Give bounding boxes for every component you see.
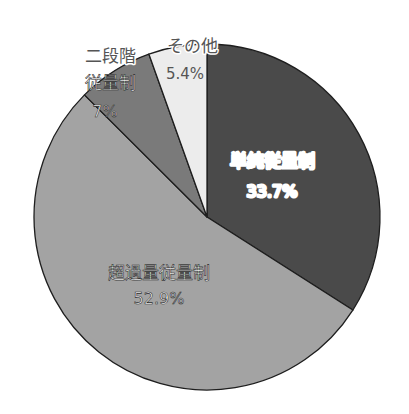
pie-slices	[34, 44, 380, 390]
label-value: 7%	[92, 102, 117, 121]
label-name: 単純従量制	[230, 151, 315, 171]
label-name-line2: 従量制	[85, 73, 136, 93]
label-value: 33.7%	[247, 182, 298, 201]
label-value: 52.9%	[134, 289, 185, 308]
pie-chart: 単純従量制 33.7% 超過量従量制 52.9% 二段階 従量制 7% その他 …	[0, 0, 409, 414]
label-name: その他	[167, 36, 218, 56]
label-name-line1: 二段階	[85, 46, 136, 66]
label-name: 超過量従量制	[108, 263, 210, 283]
label-value: 5.4%	[166, 65, 204, 83]
